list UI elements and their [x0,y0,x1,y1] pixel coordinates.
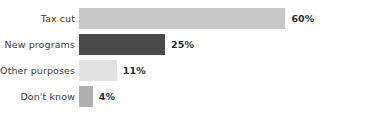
value-label: 11% [123,60,146,81]
category-label: Tax cut [41,8,75,29]
value-label: 60% [291,8,314,29]
category-label: Don't know [20,86,75,107]
category-label: Other purposes [0,60,75,81]
category-label: New programs [5,34,75,55]
bar [79,60,117,81]
horizontal-bar-chart: Tax cut 60% New programs 25% Other purpo… [0,0,370,116]
bar-row: Other purposes 11% [0,60,370,81]
bar-row: Tax cut 60% [0,8,370,29]
value-label: 25% [171,34,194,55]
bar [79,86,93,107]
bar-row: Don't know 4% [0,86,370,107]
bar [79,34,165,55]
bar-row: New programs 25% [0,34,370,55]
bar [79,8,285,29]
value-label: 4% [99,86,115,107]
